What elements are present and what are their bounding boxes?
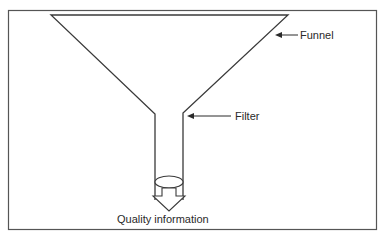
funnel-pointer <box>275 32 298 38</box>
filter-pointer <box>187 113 231 119</box>
diagram-frame <box>9 11 377 230</box>
filter-label: Filter <box>235 110 260 122</box>
arrow-left-icon <box>187 113 194 119</box>
arrow-left-icon <box>275 32 282 38</box>
funnel-shape <box>51 15 288 200</box>
funnel-label: Funnel <box>300 29 334 41</box>
funnel-diagram: Funnel Filter Quality information <box>0 0 385 241</box>
output-arrow-icon <box>153 188 185 211</box>
output-label: Quality information <box>117 213 209 225</box>
filter-outlet-ellipse <box>155 176 183 188</box>
